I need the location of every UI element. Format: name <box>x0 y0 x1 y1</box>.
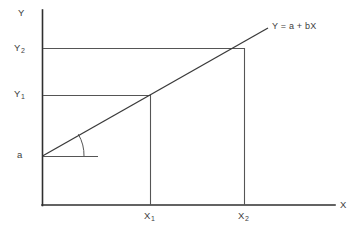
x-axis-label: X <box>340 200 347 210</box>
y1-tick-label-subscript: 1 <box>21 93 26 100</box>
y-axis-label: Y <box>18 8 25 18</box>
intercept-label: a <box>17 150 22 160</box>
y2-tick-label-text: Y <box>14 42 21 53</box>
x2-tick-label-text: X <box>238 210 245 221</box>
x1-tick-label: X1 <box>144 211 155 221</box>
y2-tick-label: Y2 <box>14 43 25 53</box>
x2-tick-label-subscript: 2 <box>245 215 250 222</box>
regression-line <box>43 28 269 156</box>
angle-arc <box>78 134 84 156</box>
diagram-canvas <box>0 0 358 232</box>
x1-tick-label-subscript: 1 <box>151 215 156 222</box>
y2-tick-label-subscript: 2 <box>21 47 26 54</box>
y1-tick-label: Y1 <box>14 89 25 99</box>
y1-tick-label-text: Y <box>14 88 21 99</box>
regression-equation-label: Y = a + bX <box>272 22 316 31</box>
regression-diagram: Y Y2 Y1 a X1 X2 X Y = a + bX <box>0 0 358 232</box>
x1-tick-label-text: X <box>144 210 151 221</box>
x2-tick-label: X2 <box>238 211 249 221</box>
